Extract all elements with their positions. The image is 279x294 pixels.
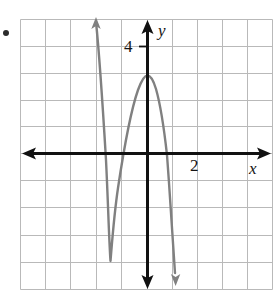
x-axis-label: x (249, 160, 257, 177)
y-axis-tick-label-4: 4 (124, 38, 133, 55)
bullet-marker-icon (3, 30, 9, 36)
plot-background (0, 0, 279, 294)
x-axis-tick-label-2: 2 (190, 157, 199, 174)
graph-figure: y x 4 2 (0, 0, 279, 294)
coordinate-plane-svg (0, 0, 279, 294)
y-axis-label: y (158, 22, 166, 39)
